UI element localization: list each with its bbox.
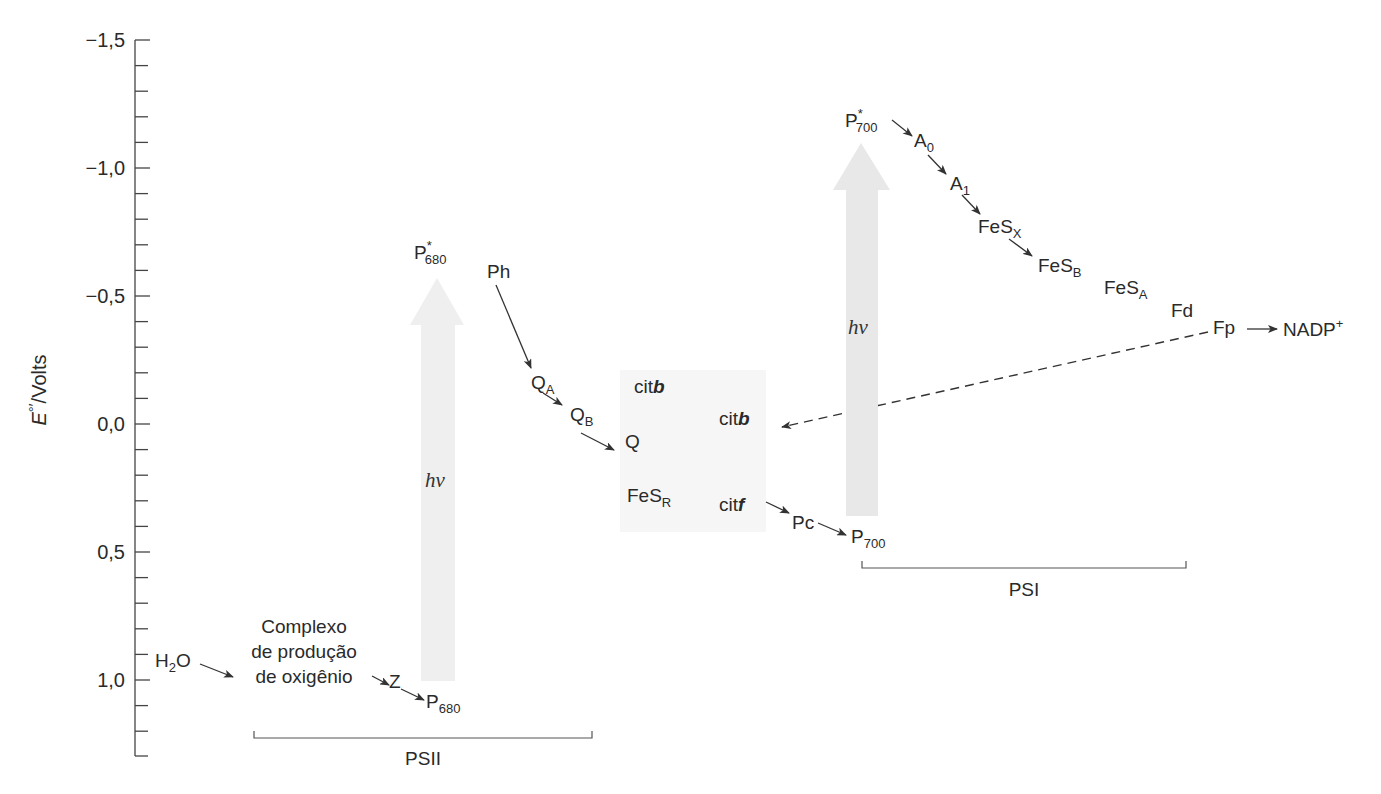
carrier-a1: A1 xyxy=(950,173,970,198)
oec-label-line2: de produção xyxy=(251,641,357,662)
electron-arrow xyxy=(1009,239,1032,256)
electron-arrow xyxy=(818,523,846,535)
electron-arrow xyxy=(496,285,531,368)
carrier-fp: Fp xyxy=(1213,317,1235,338)
electron-arrow xyxy=(892,120,912,136)
carrier-p680: P680 xyxy=(426,691,460,716)
electron-arrow xyxy=(581,433,614,450)
carrier-fesx: FeSX xyxy=(978,216,1022,241)
electron-arrow xyxy=(766,502,789,513)
carrier-z: Z xyxy=(389,671,401,692)
psii-bracket xyxy=(254,731,592,738)
electron-arrow xyxy=(962,195,980,214)
carrier-citf: citf xyxy=(719,494,746,515)
y-tick-label: −1,0 xyxy=(86,157,125,179)
electron-arrow xyxy=(200,664,233,677)
carrier-q: Q xyxy=(625,431,640,452)
psi-bracket xyxy=(862,561,1186,568)
y-axis-label: E°′/Volts xyxy=(25,354,50,425)
carrier-fd: Fd xyxy=(1171,300,1193,321)
carrier-p680-excited: P*680 xyxy=(414,238,446,267)
carrier-p700-excited: P*700 xyxy=(845,106,877,135)
oec-label-line1: Complexo xyxy=(261,616,347,637)
electron-arrow xyxy=(372,676,389,685)
y-tick-label: −1,5 xyxy=(86,29,125,51)
oec-label-line3: de oxigênio xyxy=(255,666,352,687)
carrier-a0: A0 xyxy=(914,130,934,155)
cyclic-electron-path-arrow xyxy=(782,332,1208,427)
hv-label-psi: hν xyxy=(848,315,869,339)
electron-arrow xyxy=(928,155,946,174)
carrier-citb-1: citb xyxy=(634,376,665,397)
carrier-h2o: H2O xyxy=(155,650,191,675)
hv-label-psii: hν xyxy=(425,468,446,492)
z-scheme-diagram: −1,5 −1,0 −0,5 0,0 0,5 1,0 E°′/Volts hν … xyxy=(0,0,1381,794)
y-tick-label: 1,0 xyxy=(97,669,125,691)
y-axis: −1,5 −1,0 −0,5 0,0 0,5 1,0 E°′/Volts xyxy=(25,29,150,756)
carrier-citb-2: citb xyxy=(719,408,750,429)
carrier-p700: P700 xyxy=(851,526,885,551)
psii-label: PSII xyxy=(405,748,441,769)
y-tick-label: 0,5 xyxy=(97,541,125,563)
carrier-pc: Pc xyxy=(792,512,814,533)
y-tick-label: 0,0 xyxy=(97,413,125,435)
y-axis-minor-ticks xyxy=(135,40,150,756)
carrier-nadp: NADP+ xyxy=(1283,316,1343,340)
carrier-ph: Ph xyxy=(487,261,510,282)
psi-label: PSI xyxy=(1009,579,1040,600)
electron-arrow xyxy=(401,689,424,700)
carrier-qb: QB xyxy=(570,404,593,429)
y-tick-label: −0,5 xyxy=(86,285,125,307)
carrier-fesb: FeSB xyxy=(1038,255,1082,280)
carrier-fesa: FeSA xyxy=(1104,277,1148,302)
